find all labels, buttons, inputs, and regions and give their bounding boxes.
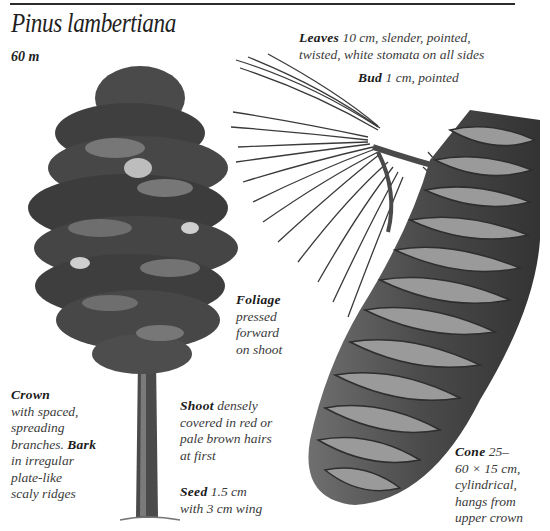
top-rule	[10, 3, 515, 5]
cone-text-1: 25–	[489, 444, 509, 459]
seed-text-1: 1.5 cm	[211, 484, 247, 499]
cone-line-4: hangs from	[455, 494, 523, 511]
cone-line-2: 60 × 15 cm,	[455, 461, 523, 478]
bud-text: 1 cm, pointed	[386, 70, 459, 85]
leaves-caption: Leaves 10 cm, slender, pointed, twisted,…	[299, 30, 484, 63]
foliage-line-2: forward	[236, 325, 282, 342]
cone-term: Cone	[455, 444, 485, 459]
crown-bark-caption: Crown with spaced, spreading branches. B…	[11, 387, 96, 503]
shoot-text-1: densely	[217, 398, 257, 413]
shoot-caption: Shoot densely covered in red or pale bro…	[180, 398, 272, 464]
cone-caption: Cone 25– 60 × 15 cm, cylindrical, hangs …	[455, 444, 523, 527]
bark-line-1: in irregular	[11, 453, 96, 470]
bark-term: Bark	[67, 437, 96, 452]
shoot-term: Shoot	[180, 398, 214, 413]
leaves-text-2: twisted, white stomata on all sides	[299, 47, 484, 64]
trunk	[120, 358, 180, 520]
seed-text-2: with 3 cm wing	[180, 501, 262, 518]
cone-line-5: upper crown	[455, 510, 523, 527]
tree-crown	[28, 66, 238, 374]
cone-line-3: cylindrical,	[455, 477, 523, 494]
crown-line-2: spreading	[11, 420, 96, 437]
bark-line-2: plate-like	[11, 470, 96, 487]
leaves-text-1: 10 cm, slender, pointed,	[342, 30, 470, 45]
leaves-term: Leaves	[299, 30, 339, 45]
seed-caption: Seed 1.5 cm with 3 cm wing	[180, 484, 262, 517]
bud-term: Bud	[358, 70, 382, 85]
crown-term: Crown	[11, 387, 50, 402]
crown-line-3: branches.	[11, 437, 64, 452]
foliage-line-3: on shoot	[236, 342, 282, 359]
species-title: Pinus lambertiana	[11, 8, 176, 39]
bark-line-3: scaly ridges	[11, 486, 96, 503]
shoot-line-2: covered in red or	[180, 415, 272, 432]
shoot-line-4: at first	[180, 448, 272, 465]
foliage-caption: Foliage pressed forward on shoot	[236, 292, 282, 358]
seed-term: Seed	[180, 484, 207, 499]
crown-line-1: with spaced,	[11, 404, 96, 421]
foliage-term: Foliage	[236, 292, 281, 307]
shoot-line-3: pale brown hairs	[180, 431, 272, 448]
foliage-line-1: pressed	[236, 309, 282, 326]
bud-caption: Bud 1 cm, pointed	[358, 70, 459, 87]
